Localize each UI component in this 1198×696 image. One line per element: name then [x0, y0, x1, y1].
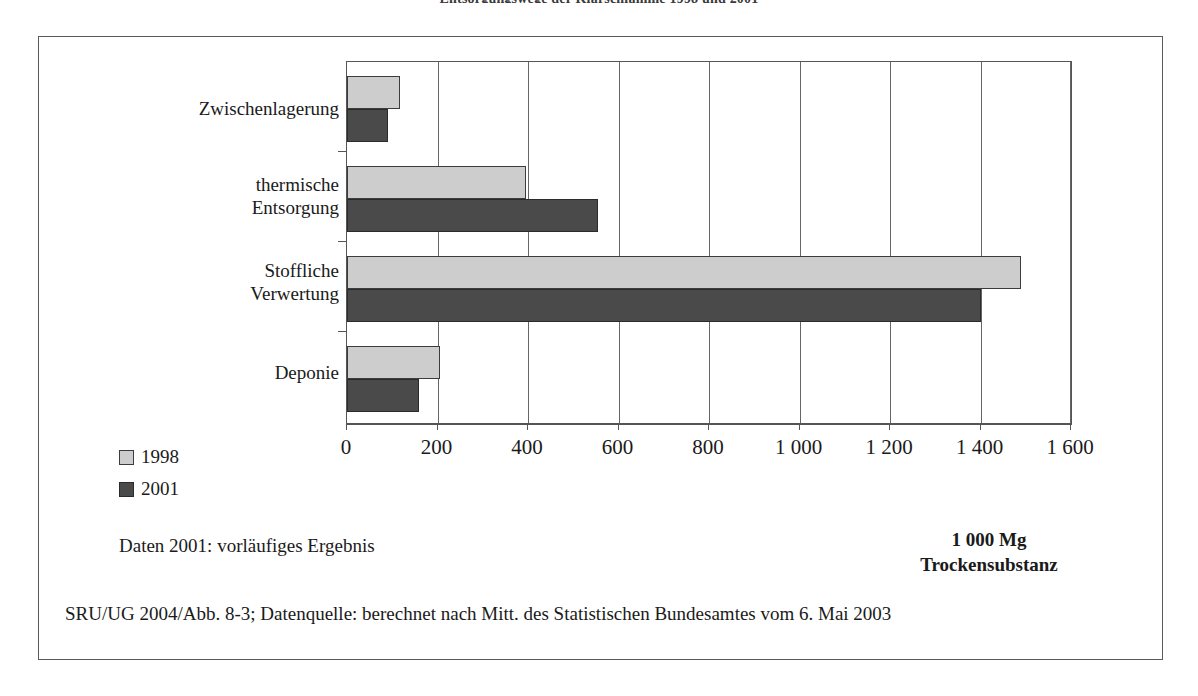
gridline-1600: [1070, 62, 1071, 424]
legend-label-2001: 2001: [141, 478, 179, 500]
x-axis-tick-1600: [1070, 423, 1071, 430]
bar-thermische-entsorgung-1998: [347, 166, 526, 199]
figure-title: Entsorgungswege der Klärschlämme 1998 un…: [0, 0, 1198, 3]
bar-zwischenlagerung-2001: [347, 109, 388, 142]
x-axis-tick-800: [708, 423, 709, 430]
bar-stoffliche-verwertung-1998: [347, 256, 1021, 289]
category-label-line1: Zwischenlagerung: [89, 97, 339, 120]
gridline-1200: [890, 62, 891, 424]
x-axis-tick-200: [437, 423, 438, 430]
legend-label-1998: 1998: [141, 446, 179, 468]
bar-thermische-entsorgung-2001: [347, 199, 598, 232]
gridline-800: [709, 62, 710, 424]
x-axis-label-1400: 1 400: [956, 435, 1003, 460]
category-label-line1: Stoffliche: [89, 259, 339, 282]
unit-annotation-line2: Trockensubstanz: [879, 552, 1099, 577]
gridline-1000: [800, 62, 801, 424]
gridline-400: [528, 62, 529, 424]
chart-legend: 1998 2001: [119, 443, 179, 507]
x-axis-label-200: 200: [421, 435, 453, 460]
category-label-line1: thermische: [89, 173, 339, 196]
figure-frame: Zwischenlagerung thermische Entsorgung S…: [38, 36, 1163, 660]
gridline-1400: [981, 62, 982, 424]
legend-swatch-icon-1998: [119, 450, 134, 465]
x-axis-tick-1200: [889, 423, 890, 430]
x-axis-tick-400: [527, 423, 528, 430]
x-axis-label-1200: 1 200: [865, 435, 912, 460]
category-label-line2: Verwertung: [89, 282, 339, 305]
category-label-thermische-entsorgung: thermische Entsorgung: [89, 173, 339, 219]
bar-stoffliche-verwertung-2001: [347, 289, 981, 322]
x-axis-label-0: 0: [341, 435, 352, 460]
legend-item-1998: 1998: [119, 443, 179, 471]
plot-area: [346, 61, 1072, 424]
category-label-zwischenlagerung: Zwischenlagerung: [89, 97, 339, 120]
legend-note: Daten 2001: vorläufiges Ergebnis: [119, 535, 375, 557]
x-axis-label-800: 800: [692, 435, 724, 460]
x-axis-label-1000: 1 000: [775, 435, 822, 460]
legend-item-2001: 2001: [119, 475, 179, 503]
category-label-deponie: Deponie: [89, 361, 339, 384]
bar-zwischenlagerung-1998: [347, 76, 400, 109]
bar-deponie-1998: [347, 346, 440, 379]
source-note: SRU/UG 2004/Abb. 8-3; Datenquelle: berec…: [65, 603, 891, 625]
unit-annotation-line1: 1 000 Mg: [879, 527, 1099, 552]
x-axis-tick-0: [346, 423, 347, 430]
legend-swatch-icon-2001: [119, 482, 134, 497]
gridline-600: [619, 62, 620, 424]
category-label-line1: Deponie: [89, 361, 339, 384]
category-label-line2: Entsorgung: [89, 196, 339, 219]
x-axis-label-400: 400: [511, 435, 543, 460]
x-axis-tick-1000: [799, 423, 800, 430]
x-axis-tick-1400: [980, 423, 981, 430]
unit-annotation: 1 000 Mg Trockensubstanz: [879, 527, 1099, 577]
x-axis-label-600: 600: [602, 435, 634, 460]
category-label-stoffliche-verwertung: Stoffliche Verwertung: [89, 259, 339, 305]
x-axis-tick-600: [618, 423, 619, 430]
x-axis-label-1600: 1 600: [1046, 435, 1093, 460]
category-axis-labels: Zwischenlagerung thermische Entsorgung S…: [59, 61, 339, 423]
bar-deponie-2001: [347, 379, 419, 412]
